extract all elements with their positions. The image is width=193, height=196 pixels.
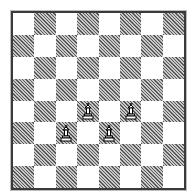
white-pawn-icon[interactable] xyxy=(124,102,138,120)
square-e7[interactable] xyxy=(99,35,120,57)
square-a4[interactable] xyxy=(13,101,34,123)
square-a2[interactable] xyxy=(13,144,34,166)
square-f8[interactable] xyxy=(120,13,141,35)
square-c7[interactable] xyxy=(56,35,77,57)
square-a3[interactable] xyxy=(13,122,34,144)
square-g4[interactable] xyxy=(141,101,162,123)
chess-board-frame xyxy=(11,11,186,190)
square-c4[interactable] xyxy=(56,101,77,123)
square-c1[interactable] xyxy=(56,166,77,188)
square-b3[interactable] xyxy=(34,122,55,144)
square-b6[interactable] xyxy=(34,57,55,79)
square-e8[interactable] xyxy=(99,13,120,35)
square-d8[interactable] xyxy=(77,13,98,35)
white-pawn-icon[interactable] xyxy=(81,102,95,120)
square-g8[interactable] xyxy=(141,13,162,35)
square-g6[interactable] xyxy=(141,57,162,79)
square-h4[interactable] xyxy=(163,101,184,123)
square-d7[interactable] xyxy=(77,35,98,57)
square-h6[interactable] xyxy=(163,57,184,79)
square-d1[interactable] xyxy=(77,166,98,188)
square-b2[interactable] xyxy=(34,144,55,166)
square-c6[interactable] xyxy=(56,57,77,79)
square-f3[interactable] xyxy=(120,122,141,144)
square-g2[interactable] xyxy=(141,144,162,166)
white-pawn-icon[interactable] xyxy=(102,124,116,142)
square-f2[interactable] xyxy=(120,144,141,166)
square-d3[interactable] xyxy=(77,122,98,144)
square-e4[interactable] xyxy=(99,101,120,123)
square-f7[interactable] xyxy=(120,35,141,57)
square-h8[interactable] xyxy=(163,13,184,35)
square-e5[interactable] xyxy=(99,79,120,101)
square-b4[interactable] xyxy=(34,101,55,123)
square-c3[interactable] xyxy=(56,122,77,144)
square-c5[interactable] xyxy=(56,79,77,101)
square-h3[interactable] xyxy=(163,122,184,144)
square-h2[interactable] xyxy=(163,144,184,166)
square-a7[interactable] xyxy=(13,35,34,57)
square-f5[interactable] xyxy=(120,79,141,101)
square-d2[interactable] xyxy=(77,144,98,166)
square-g1[interactable] xyxy=(141,166,162,188)
square-e6[interactable] xyxy=(99,57,120,79)
square-e3[interactable] xyxy=(99,122,120,144)
square-d5[interactable] xyxy=(77,79,98,101)
square-f6[interactable] xyxy=(120,57,141,79)
square-a6[interactable] xyxy=(13,57,34,79)
square-e2[interactable] xyxy=(99,144,120,166)
square-a8[interactable] xyxy=(13,13,34,35)
white-pawn-icon[interactable] xyxy=(59,124,73,142)
square-h5[interactable] xyxy=(163,79,184,101)
square-b5[interactable] xyxy=(34,79,55,101)
square-a5[interactable] xyxy=(13,79,34,101)
square-h7[interactable] xyxy=(163,35,184,57)
square-f4[interactable] xyxy=(120,101,141,123)
square-f1[interactable] xyxy=(120,166,141,188)
chess-board[interactable] xyxy=(13,13,184,188)
square-c8[interactable] xyxy=(56,13,77,35)
square-g5[interactable] xyxy=(141,79,162,101)
square-b8[interactable] xyxy=(34,13,55,35)
square-e1[interactable] xyxy=(99,166,120,188)
square-h1[interactable] xyxy=(163,166,184,188)
square-d6[interactable] xyxy=(77,57,98,79)
square-c2[interactable] xyxy=(56,144,77,166)
square-b7[interactable] xyxy=(34,35,55,57)
square-a1[interactable] xyxy=(13,166,34,188)
square-g7[interactable] xyxy=(141,35,162,57)
square-d4[interactable] xyxy=(77,101,98,123)
square-g3[interactable] xyxy=(141,122,162,144)
square-b1[interactable] xyxy=(34,166,55,188)
